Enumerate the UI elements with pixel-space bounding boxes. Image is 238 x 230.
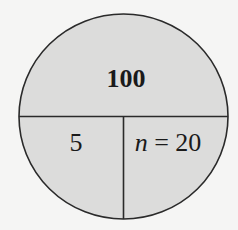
equals-sign: = xyxy=(148,128,176,157)
bottom-right-region-label: n = 20 xyxy=(135,130,202,156)
value-20: 20 xyxy=(175,128,201,157)
divided-circle-diagram xyxy=(0,0,238,230)
top-region-label: 100 xyxy=(107,66,146,92)
variable-n: n xyxy=(135,128,148,157)
bottom-left-region-label: 5 xyxy=(70,130,83,156)
